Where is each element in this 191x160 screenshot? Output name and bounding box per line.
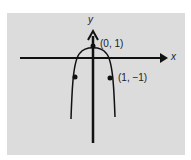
- point-1-neg1: [108, 76, 113, 81]
- point-neg1-neg1: [73, 75, 78, 80]
- point-label-0-1: (0, 1): [100, 38, 123, 49]
- point-0-1: [91, 44, 96, 49]
- point-label-1-neg1: (1, −1): [118, 72, 147, 83]
- y-axis-label: y: [88, 14, 93, 25]
- x-axis-label: x: [171, 51, 176, 62]
- parabola-graph: [0, 0, 191, 160]
- x-axis-arrow-icon: [160, 53, 168, 63]
